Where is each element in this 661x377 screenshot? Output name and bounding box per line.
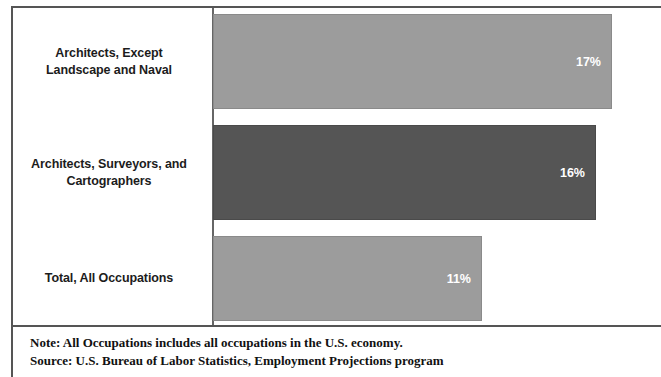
notes-block: Note: All Occupations includes all occup… <box>30 334 655 371</box>
bar-architects-surveyors-and-cartographers: 16% <box>213 125 596 220</box>
bar-row: Architects, Except Landscape and Naval 1… <box>13 14 661 109</box>
category-label-line: Cartographers <box>67 174 152 188</box>
bar-value-label: 17% <box>576 55 611 69</box>
bar-total-all-occupations: 11% <box>213 236 482 321</box>
category-label-2: Total, All Occupations <box>13 236 205 321</box>
bar-chart-figure: Architects, Except Landscape and Naval 1… <box>0 0 661 377</box>
bar-architects-except-landscape-and-naval: 17% <box>213 14 612 109</box>
category-label-1: Architects, Surveyors, and Cartographers <box>13 125 205 220</box>
source-text: Source: U.S. Bureau of Labor Statistics,… <box>30 352 655 370</box>
note-text: Note: All Occupations includes all occup… <box>30 334 655 352</box>
category-label-line: Total, All Occupations <box>45 270 173 287</box>
bar-value-label: 11% <box>447 272 481 286</box>
bar-row: Architects, Surveyors, and Cartographers… <box>13 125 661 220</box>
bar-value-label: 16% <box>560 166 595 180</box>
plot-area: Architects, Except Landscape and Naval 1… <box>13 8 661 325</box>
category-label-line: Architects, Surveyors, and <box>31 157 187 171</box>
notes-divider <box>13 325 661 327</box>
bar-row: Total, All Occupations 11% <box>13 236 661 321</box>
category-label-line: Landscape and Naval <box>46 63 172 77</box>
category-label-line: Architects, Except <box>55 46 162 60</box>
category-label-0: Architects, Except Landscape and Naval <box>13 14 205 109</box>
